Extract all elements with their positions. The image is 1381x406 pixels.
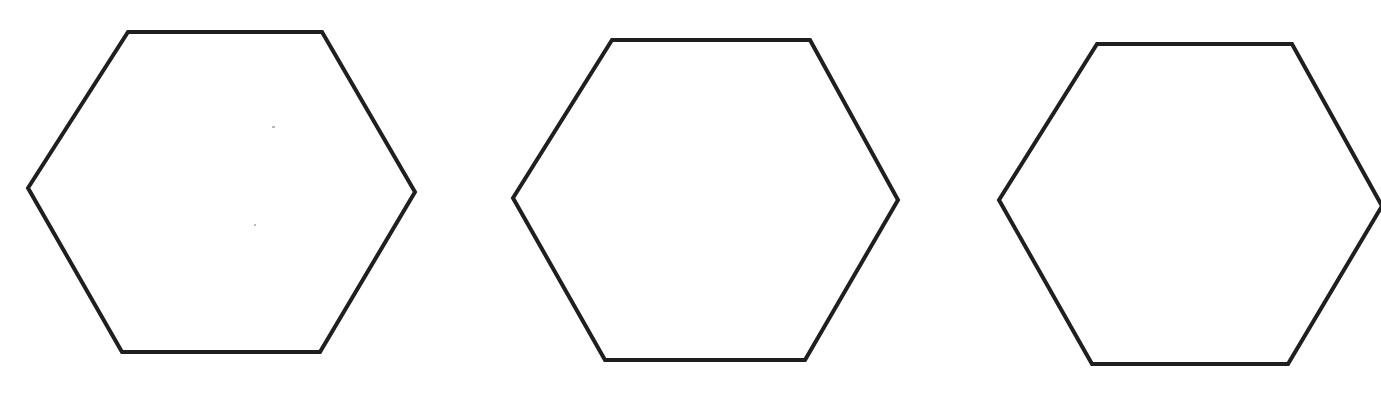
worksheet-page: Three hexagons drawn in outline, left to… [0, 0, 1381, 406]
scan-speck-2 [254, 224, 256, 226]
scan-speck-1 [272, 126, 275, 128]
hexagon-figure-canvas [0, 0, 1381, 406]
